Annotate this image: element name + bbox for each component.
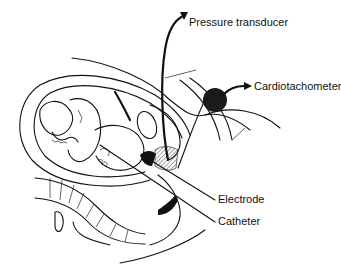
cardiotachometer-sensor — [203, 82, 252, 112]
maternal-abdomen-outline — [72, 58, 280, 130]
label-cardiotachometer: Cardiotachometer — [254, 80, 341, 92]
perineum-outline — [120, 175, 205, 263]
label-catheter: Catheter — [218, 215, 260, 227]
label-electrode: Electrode — [218, 193, 264, 205]
pressure-transducer-tube — [162, 12, 188, 160]
fetus — [40, 99, 144, 171]
label-pressure-transducer: Pressure transducer — [189, 16, 288, 28]
maternal-spine — [35, 178, 145, 245]
